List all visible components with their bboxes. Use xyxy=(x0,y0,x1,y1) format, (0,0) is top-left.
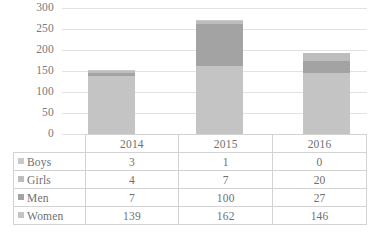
y-axis-tick-label: 50 xyxy=(0,107,54,118)
bar-segment-women-2015 xyxy=(196,66,243,134)
bar-segment-girls-2015 xyxy=(196,21,243,24)
table-header-row: 201420152016 xyxy=(14,135,367,153)
table-cell: 146 xyxy=(273,207,367,225)
table-cell: 20 xyxy=(273,171,367,189)
y-axis-tick-label: 200 xyxy=(0,44,54,55)
bar-segment-men-2014 xyxy=(88,73,135,76)
legend-row-header-women: Women xyxy=(14,207,86,225)
bar-group-2016 xyxy=(303,8,350,134)
legend-row-header-boys: Boys xyxy=(14,153,86,171)
table-cell: 27 xyxy=(273,189,367,207)
table-column-header: 2016 xyxy=(273,135,367,153)
legend-swatch-icon xyxy=(18,212,24,218)
table-cell: 3 xyxy=(85,153,179,171)
y-axis-tick-label: 250 xyxy=(0,23,54,34)
table-column-header: 2015 xyxy=(179,135,273,153)
table-cell: 4 xyxy=(85,171,179,189)
bar-segment-men-2016 xyxy=(303,61,350,72)
legend-label: Girls xyxy=(27,174,51,186)
bar-segment-women-2014 xyxy=(88,76,135,134)
bar-segment-boys-2014 xyxy=(88,70,135,71)
plot-area xyxy=(62,8,367,134)
legend-label: Men xyxy=(27,192,49,204)
bar-segment-women-2016 xyxy=(303,73,350,134)
table-cell: 7 xyxy=(179,171,273,189)
bar-group-2014 xyxy=(88,8,135,134)
table-row: Women139162146 xyxy=(14,207,367,225)
y-axis-tick-label: 100 xyxy=(0,86,54,97)
table-cell: 139 xyxy=(85,207,179,225)
legend-row-header-men: Men xyxy=(14,189,86,207)
legend-label: Women xyxy=(27,210,63,222)
table-row: Men710027 xyxy=(14,189,367,207)
stacked-column-chart-with-data-table: 300250200150100500 201420152016Boys310Gi… xyxy=(0,0,379,234)
bar-segment-girls-2016 xyxy=(303,53,350,61)
bar-segment-men-2015 xyxy=(196,24,243,66)
legend-swatch-icon xyxy=(18,158,24,164)
y-axis-tick-label: 300 xyxy=(0,2,54,13)
table-corner-cell xyxy=(14,135,86,153)
table-row: Boys310 xyxy=(14,153,367,171)
bar-segment-girls-2014 xyxy=(88,71,135,73)
bar-group-2015 xyxy=(196,8,243,134)
table-cell: 7 xyxy=(85,189,179,207)
table-row: Girls4720 xyxy=(14,171,367,189)
table-cell: 100 xyxy=(179,189,273,207)
legend-label: Boys xyxy=(27,156,51,168)
legend-row-header-girls: Girls xyxy=(14,171,86,189)
data-table: 201420152016Boys310Girls4720Men710027Wom… xyxy=(13,134,367,225)
table-cell: 1 xyxy=(179,153,273,171)
table-column-header: 2014 xyxy=(85,135,179,153)
legend-swatch-icon xyxy=(18,194,24,200)
legend-swatch-icon xyxy=(18,176,24,182)
table-cell: 0 xyxy=(273,153,367,171)
y-axis-tick-label: 150 xyxy=(0,65,54,76)
table-cell: 162 xyxy=(179,207,273,225)
bar-segment-boys-2015 xyxy=(196,20,243,21)
